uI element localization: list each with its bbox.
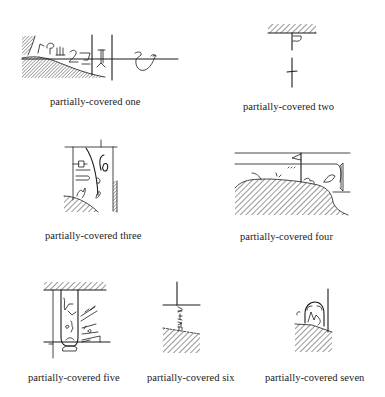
figure-panel-one: partially-covered one [0,0,200,115]
caption-two: partially-covered two [243,101,334,112]
caption-six: partially-covered six [147,372,235,383]
figure-panel-seven: partially-covered seven [250,260,385,397]
caption-seven: partially-covered seven [265,372,364,383]
figure-panel-six: partially-covered six [130,260,255,397]
caption-five: partially-covered five [28,372,120,383]
sign-drawing-two [200,0,385,115]
figure-panel-two: partially-covered two [200,0,385,115]
sign-drawing-four [200,130,385,245]
caption-four: partially-covered four [240,231,333,242]
figure-panel-three: partially-covered three [0,130,200,245]
caption-three: partially-covered three [45,230,141,241]
sign-drawing-three [0,130,200,245]
caption-one: partially-covered one [50,96,141,107]
figure-panel-four: partially-covered four [200,130,385,245]
figure-panel-five: partially-covered five [0,260,135,397]
